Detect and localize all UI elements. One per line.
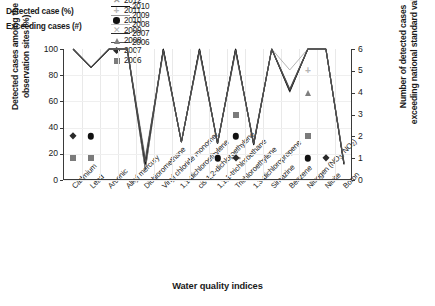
chart-figure: Detected case (%) 2013201220112010200920… bbox=[0, 0, 435, 306]
exceeding-marker-2007-trichloroethylene bbox=[233, 156, 238, 161]
marker-circle-icon bbox=[305, 155, 311, 161]
legend-marker-label-2010: 2010 bbox=[124, 16, 141, 25]
marker-square-icon bbox=[70, 155, 76, 161]
marker-glyph-cross-icon: ✕ bbox=[113, 26, 121, 35]
y-axis-right-tick-2: 2 bbox=[358, 131, 378, 141]
marker-diamond-icon bbox=[232, 154, 239, 161]
legend-row-exceeding-cases: Exceeding cases (#) 2013✕2012+20112010✕2… bbox=[6, 18, 430, 33]
exceeding-marker-2010-nitrogen-no3-no2 bbox=[305, 155, 311, 161]
exceeding-marker-2010-1-1-1-trichloroethane bbox=[214, 155, 220, 161]
y-axis-left-tick-80: 80 bbox=[32, 70, 58, 80]
y-axis-left-tick-60: 60 bbox=[32, 96, 58, 106]
marker-plus-icon: + bbox=[305, 66, 311, 76]
line-series-2007 bbox=[73, 49, 344, 163]
marker-square-icon bbox=[305, 133, 311, 139]
legend-marker-label-2009: 2009 bbox=[124, 26, 141, 35]
y-axis-right-tick-4: 4 bbox=[358, 87, 378, 97]
legend-marker-label-2008: 2008 bbox=[124, 36, 141, 45]
exceeding-marker-2006-cadmium bbox=[70, 155, 76, 161]
marker-triangle-icon bbox=[305, 90, 311, 96]
legend-marker-2008: 2008 bbox=[110, 36, 144, 46]
exceeding-marker-2011-nitrogen-no3-no2: + bbox=[305, 66, 311, 76]
y-axis-left-title: Detected cases amoing the observation si… bbox=[10, 0, 31, 127]
marker-glyph-circle-icon bbox=[113, 17, 119, 23]
horizontal-gridline bbox=[64, 180, 351, 181]
legend-marker-swatch-2011: + bbox=[110, 6, 123, 16]
exceeding-marker-2006-nitrogen-no3-no2 bbox=[305, 133, 311, 139]
y-axis-left-tick-100: 100 bbox=[32, 44, 58, 54]
line-series-2011 bbox=[73, 49, 344, 167]
legend-marker-2011: +2011 bbox=[110, 6, 144, 16]
marker-square-icon bbox=[233, 112, 239, 118]
legend-marker-swatch-2010 bbox=[110, 16, 123, 26]
legend-marker-2009: ✕2009 bbox=[110, 26, 144, 36]
y-axis-right-tick-5: 5 bbox=[358, 65, 378, 75]
x-axis-title: Water quality indices bbox=[0, 281, 435, 291]
y-axis-left-tickmark bbox=[60, 180, 63, 181]
legend-marker-2010: 2010 bbox=[110, 16, 144, 26]
exceeding-marker-2010-lead bbox=[88, 133, 94, 139]
y-axis-right-tick-3: 3 bbox=[358, 109, 378, 119]
marker-glyph-plus-icon: + bbox=[114, 6, 120, 16]
marker-diamond-icon bbox=[322, 154, 329, 161]
line-series-2010 bbox=[73, 49, 344, 164]
marker-diamond-icon bbox=[69, 133, 76, 140]
line-series-2013 bbox=[73, 49, 344, 170]
y-axis-left-tick-20: 20 bbox=[32, 148, 58, 158]
exceeding-marker-2010-trichloroethylene bbox=[232, 133, 238, 139]
y-axis-left-tick-0: 0 bbox=[32, 175, 58, 185]
chart-legend: Detected case (%) 2013201220112010200920… bbox=[6, 3, 430, 33]
y-axis-right-tick-6: 6 bbox=[358, 44, 378, 54]
legend-marker-label-2011: 2011 bbox=[124, 6, 141, 15]
marker-circle-icon bbox=[88, 133, 94, 139]
line-series-2008 bbox=[73, 49, 344, 162]
exceeding-marker-2007-nitrite bbox=[323, 156, 328, 161]
y-axis-right-title: Number of detected cases exceeding natio… bbox=[398, 0, 419, 127]
legend-marker-swatch-2008 bbox=[110, 36, 123, 46]
line-series-2006 bbox=[73, 49, 344, 163]
exceeding-marker-2008-nitrogen-no3-no2 bbox=[305, 90, 311, 96]
y-axis-left-tick-40: 40 bbox=[32, 122, 58, 132]
line-series-2012 bbox=[73, 49, 344, 170]
exceeding-marker-2006-trichloroethylene bbox=[233, 112, 239, 118]
legend-marker-swatch-2009: ✕ bbox=[110, 26, 123, 36]
exceeding-marker-2007-cadmium bbox=[70, 134, 75, 139]
legend-marker-label-2012: 2012 bbox=[124, 0, 141, 5]
y-axis-right-tick-1: 1 bbox=[358, 153, 378, 163]
marker-circle-icon bbox=[214, 155, 220, 161]
legend-row-detected-case: Detected case (%) 2013201220112010200920… bbox=[6, 3, 430, 18]
marker-glyph-triangle-icon bbox=[114, 38, 120, 44]
plot-area: + bbox=[63, 49, 352, 180]
marker-square-icon bbox=[88, 155, 94, 161]
exceeding-marker-2006-lead bbox=[88, 155, 94, 161]
marker-circle-icon bbox=[232, 133, 238, 139]
line-series-2009 bbox=[73, 49, 344, 162]
